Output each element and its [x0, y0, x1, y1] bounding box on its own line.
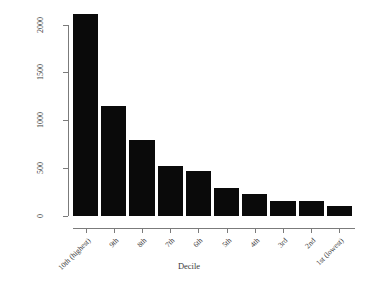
x-axis-title: Decile — [0, 261, 378, 271]
bar — [270, 201, 295, 216]
x-tick-mark — [198, 228, 199, 233]
bar — [129, 140, 154, 216]
bar — [73, 14, 98, 216]
bar — [242, 194, 267, 216]
bar-chart: Number of Reviews 0500100015002000 10th … — [0, 0, 378, 296]
x-tick-mark — [142, 228, 143, 233]
x-axis-line — [73, 228, 355, 229]
bar — [299, 201, 324, 216]
bar — [101, 106, 126, 216]
x-tick-mark — [227, 228, 228, 233]
x-tick-mark — [255, 228, 256, 233]
bar — [327, 206, 352, 216]
bar — [186, 171, 211, 216]
x-tick-mark — [114, 228, 115, 233]
x-tick-mark — [86, 228, 87, 233]
x-tick-mark — [339, 228, 340, 233]
x-tick-mark — [170, 228, 171, 233]
x-tick-mark — [283, 228, 284, 233]
x-tick-mark — [311, 228, 312, 233]
bar — [158, 166, 183, 216]
bar — [214, 188, 239, 216]
